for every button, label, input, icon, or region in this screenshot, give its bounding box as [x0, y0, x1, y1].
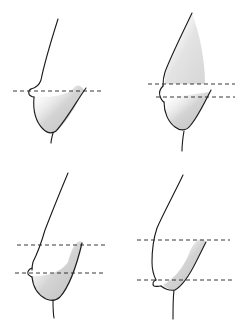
shading	[163, 239, 206, 290]
shading	[32, 242, 83, 301]
figure-canvas	[0, 0, 245, 332]
torso-line	[173, 290, 174, 319]
torso-line	[182, 131, 184, 151]
nipple	[153, 280, 161, 286]
panel-top-right	[148, 13, 235, 151]
panel-bottom-right	[137, 175, 232, 319]
upper-contour	[152, 175, 183, 280]
shading	[34, 86, 84, 134]
shading-upper	[165, 13, 205, 84]
upper-contour	[32, 173, 68, 270]
nipple	[29, 89, 34, 97]
torso-line	[51, 133, 53, 143]
panel-bottom-left	[15, 173, 107, 318]
panel-top-left	[13, 19, 101, 143]
nipple	[28, 268, 32, 277]
torso-line	[53, 300, 54, 318]
nipple	[160, 86, 164, 102]
upper-contour	[31, 19, 58, 89]
